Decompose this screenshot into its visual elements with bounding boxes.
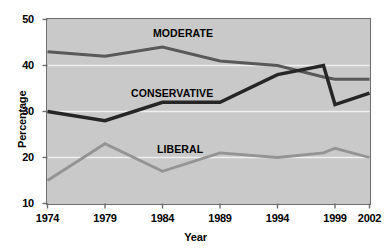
x-tick-1994: 1994 <box>258 212 298 224</box>
x-tick-1984: 1984 <box>143 212 183 224</box>
y-tick-20: 20 <box>8 151 34 163</box>
series-label-moderate: MODERATE <box>153 27 213 39</box>
x-tick-2002: 2002 <box>350 212 390 224</box>
y-tick-50: 50 <box>8 13 34 25</box>
y-axis-title: Percentage <box>16 91 28 148</box>
series-label-liberal: LIBERAL <box>157 143 203 155</box>
series-label-conservative: CONSERVATIVE <box>131 87 213 99</box>
gridlines <box>48 66 370 158</box>
series-lines <box>48 47 370 180</box>
x-tick-1974: 1974 <box>28 212 68 224</box>
y-tick-40: 40 <box>8 59 34 71</box>
line-chart: 5040302010 1974197919841989199419992002 … <box>0 0 391 249</box>
x-tick-1979: 1979 <box>85 212 125 224</box>
axis-ticks <box>43 20 370 209</box>
x-tick-1989: 1989 <box>200 212 240 224</box>
y-tick-10: 10 <box>8 197 34 209</box>
x-axis-title: Year <box>0 231 391 243</box>
